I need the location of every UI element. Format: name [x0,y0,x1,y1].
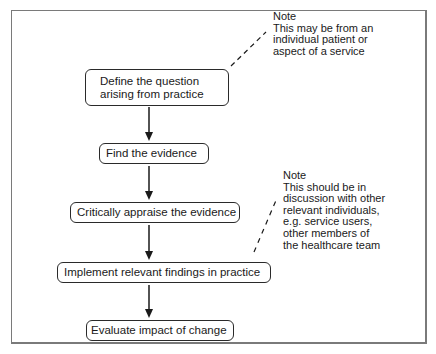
step-appraise-evidence: Critically appraise the evidence [70,202,240,223]
step-evaluate-label: Evaluate impact of change [91,324,227,337]
step-find-label: Find the evidence [106,147,197,160]
arrow-implement-to-evaluate [145,285,153,318]
note-1-connector [231,32,266,66]
step-evaluate-impact: Evaluate impact of change [86,320,234,341]
step-implement-label: Implement relevant findings in practice [64,266,260,279]
step-define-line-1: Define the question [100,75,199,88]
step-implement-findings: Implement relevant findings in practice [57,262,271,283]
arrow-define-to-find [145,107,153,141]
step-find-evidence: Find the evidence [99,143,209,164]
note-2-title: Note [283,170,385,182]
note-2-line: the healthcare team [283,240,385,252]
note-2-connector [254,198,277,252]
note-1-title: Note [273,11,373,23]
note-1: Note This may be from an individual pati… [273,11,373,57]
step-define-question: Define the question arising from practic… [85,69,229,106]
arrow-appraise-to-implement [145,225,153,260]
note-2: Note This should be in discussion with o… [283,170,385,251]
step-define-line-2: arising from practice [100,88,204,101]
note-2-line: other members of [283,228,385,240]
note-1-line: aspect of a service [273,46,373,58]
step-appraise-label: Critically appraise the evidence [77,206,236,219]
arrow-find-to-appraise [145,166,153,200]
